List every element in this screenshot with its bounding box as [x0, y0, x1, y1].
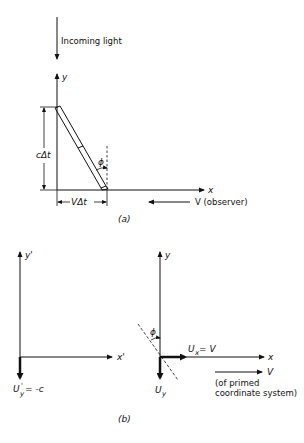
v-delta-t-label: VΔt — [71, 197, 87, 207]
svg-text:U: U — [155, 385, 162, 395]
c-delta-t-label: cΔt — [36, 150, 51, 160]
x-prime-axis-label: x' — [116, 352, 125, 362]
unprimed-coordinate-system: y x ϕ U x = V U y V (of pr — [138, 250, 297, 398]
svg-text:= V: = V — [199, 344, 216, 354]
observer-velocity-label: V (observer) — [195, 197, 248, 207]
angle-phi-label: ϕ — [98, 157, 104, 167]
frame-velocity-label: V — [267, 367, 274, 377]
aberrated-direction-dashed — [138, 324, 178, 380]
primed-coordinate-system: y' x' U ' y = -c — [13, 250, 125, 398]
angle-phi-label-b: ϕ — [150, 327, 156, 337]
angle-arc — [96, 168, 107, 170]
caption-a: (a) — [118, 214, 131, 224]
telescope-tube — [55, 106, 108, 190]
part-b: y' x' U ' y = -c y x ϕ U — [13, 250, 297, 424]
x-axis-label-b: x — [267, 352, 274, 362]
uy-label: U y — [155, 385, 167, 398]
frame-velocity-note-line2: coordinate system) — [215, 388, 297, 398]
y-prime-axis-label: y' — [24, 250, 33, 260]
c-delta-t-dimension — [40, 107, 58, 190]
incoming-light-label: Incoming light — [61, 36, 122, 46]
ux-label: U x = V — [188, 344, 216, 357]
x-axis-label: x — [207, 185, 214, 195]
svg-text:U: U — [13, 384, 20, 394]
angle-arc-b — [151, 338, 160, 340]
caption-b: (b) — [118, 414, 131, 424]
y-axis-label: y — [61, 72, 68, 82]
svg-text:': ' — [21, 382, 23, 390]
frame-velocity-note-line1: (of primed — [215, 378, 259, 388]
svg-text:U: U — [188, 344, 195, 354]
aberration-diagram: Incoming light y x ϕ cΔt — [0, 0, 304, 443]
uy-prime-label: U ' y = -c — [13, 382, 44, 398]
y-axis-label-b: y — [164, 250, 171, 260]
svg-text:y: y — [161, 390, 167, 398]
part-a: Incoming light y x ϕ cΔt — [36, 17, 248, 224]
svg-text:= -c: = -c — [25, 384, 44, 394]
